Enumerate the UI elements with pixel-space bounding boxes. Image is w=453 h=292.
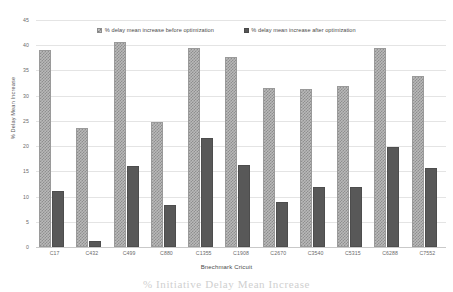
bar-after-optimization[interactable] <box>238 165 250 247</box>
bar-before-optimization[interactable] <box>412 76 424 248</box>
bar-after-optimization[interactable] <box>276 202 288 247</box>
bar-after-optimization[interactable] <box>201 138 213 247</box>
bar-group <box>185 20 222 247</box>
figure-caption: % Initiative Delay Mean Increase <box>0 278 453 292</box>
x-axis-ticks: C17C432C499C880C1355C1908C2670C3540C5315… <box>36 250 446 260</box>
bar-before-optimization[interactable] <box>337 86 349 247</box>
bar-group <box>36 20 73 247</box>
x-tick-label: C7552 <box>407 250 447 256</box>
y-tick-label: 5 <box>26 219 29 225</box>
x-axis-title: Bnechmark Cricuit <box>0 264 453 270</box>
bar-before-optimization[interactable] <box>263 88 275 247</box>
bar-before-optimization[interactable] <box>114 42 126 247</box>
y-tick-label: 10 <box>23 194 29 200</box>
x-tick-label: C1355 <box>184 250 224 256</box>
x-tick-label: C432 <box>72 250 112 256</box>
bar-after-optimization[interactable] <box>387 147 399 247</box>
x-tick-label: C3540 <box>296 250 336 256</box>
y-tick-label: 30 <box>23 93 29 99</box>
legend-item[interactable]: % delay mean increase after optimization <box>244 27 356 33</box>
bar-before-optimization[interactable] <box>151 122 163 247</box>
legend-label: % delay mean increase after optimization <box>251 27 355 33</box>
bar-before-optimization[interactable] <box>225 57 237 247</box>
bar-group <box>73 20 110 247</box>
legend-label: % delay mean increase before optimizatio… <box>105 27 214 33</box>
bar-group <box>222 20 259 247</box>
y-tick-label: 25 <box>23 118 29 124</box>
y-tick-label: 45 <box>23 17 29 23</box>
checkered-swatch-icon <box>97 28 102 33</box>
bar-group <box>334 20 371 247</box>
solid-swatch-icon <box>244 28 249 33</box>
x-tick-label: C6288 <box>370 250 410 256</box>
y-tick-label: 40 <box>23 42 29 48</box>
bar-group <box>111 20 148 247</box>
x-tick-label: C1908 <box>221 250 261 256</box>
y-axis-title: % Delay Mean Increase <box>10 63 16 153</box>
bar-group <box>371 20 408 247</box>
bar-after-optimization[interactable] <box>127 166 139 247</box>
x-tick-label: C499 <box>109 250 149 256</box>
y-tick-label: 35 <box>23 67 29 73</box>
bar-after-optimization[interactable] <box>350 187 362 247</box>
bar-after-optimization[interactable] <box>89 241 101 247</box>
bar-before-optimization[interactable] <box>76 128 88 247</box>
bar-group <box>148 20 185 247</box>
x-tick-label: C880 <box>146 250 186 256</box>
bar-after-optimization[interactable] <box>164 205 176 247</box>
gridline <box>36 247 446 248</box>
x-tick-label: C5315 <box>333 250 373 256</box>
legend-item[interactable]: % delay mean increase before optimizatio… <box>97 27 214 33</box>
bar-before-optimization[interactable] <box>39 50 51 247</box>
bar-after-optimization[interactable] <box>52 191 64 247</box>
figure-container: 051015202530354045 % Delay Mean Increase… <box>0 0 453 292</box>
y-tick-label: 0 <box>26 244 29 250</box>
x-tick-label: C2670 <box>258 250 298 256</box>
y-axis-ticks: 051015202530354045 <box>0 20 33 247</box>
bar-before-optimization[interactable] <box>188 48 200 247</box>
x-tick-label: C17 <box>35 250 75 256</box>
bar-after-optimization[interactable] <box>313 187 325 247</box>
bar-series-group <box>36 20 446 247</box>
bar-before-optimization[interactable] <box>300 89 312 247</box>
y-tick-label: 15 <box>23 168 29 174</box>
bar-group <box>260 20 297 247</box>
bar-chart: 051015202530354045 % Delay Mean Increase… <box>0 0 453 275</box>
bar-after-optimization[interactable] <box>425 168 437 247</box>
chart-legend: % delay mean increase before optimizatio… <box>0 27 453 33</box>
y-tick-label: 20 <box>23 143 29 149</box>
bar-group <box>409 20 446 247</box>
bar-group <box>297 20 334 247</box>
bar-before-optimization[interactable] <box>374 48 386 247</box>
